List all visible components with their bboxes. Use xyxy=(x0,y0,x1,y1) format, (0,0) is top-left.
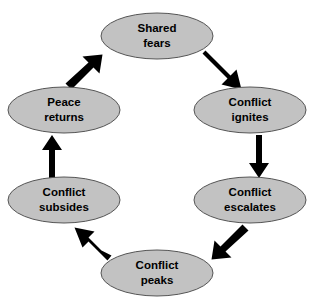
node-label-conflict-escalates-line2: escalates xyxy=(224,201,276,213)
node-peace-returns[interactable]: Peace returns xyxy=(8,87,120,133)
node-label-conflict-peaks-line1: Conflict xyxy=(136,259,179,271)
node-label-conflict-escalates-line1: Conflict xyxy=(229,186,272,198)
node-label-shared-fears-line2: fears xyxy=(143,37,171,49)
node-shared-fears[interactable]: Shared fears xyxy=(101,13,213,59)
conflict-cycle-diagram: Shared fears Conflict ignites Conflict e… xyxy=(0,0,314,298)
node-label-conflict-ignites-line1: Conflict xyxy=(229,96,272,108)
node-conflict-peaks[interactable]: Conflict peaks xyxy=(101,250,213,296)
node-shape-conflict-escalates xyxy=(194,177,306,223)
node-label-peace-returns-line2: returns xyxy=(44,111,84,123)
node-shape-conflict-peaks xyxy=(101,250,213,296)
node-label-conflict-subsides-line1: Conflict xyxy=(43,186,86,198)
node-conflict-subsides[interactable]: Conflict subsides xyxy=(8,177,120,223)
node-shape-shared-fears xyxy=(101,13,213,59)
arrow-shared-fears-to-conflict-ignites xyxy=(203,51,242,90)
node-conflict-escalates[interactable]: Conflict escalates xyxy=(194,177,306,223)
arrow-peace-returns-to-shared-fears xyxy=(66,55,103,90)
node-shape-peace-returns xyxy=(8,87,120,133)
arrow-conflict-peaks-to-conflict-subsides xyxy=(75,228,112,261)
node-label-conflict-ignites-line2: ignites xyxy=(231,111,268,123)
node-shape-conflict-ignites xyxy=(194,87,306,133)
arrow-conflict-subsides-to-peace-returns xyxy=(42,135,62,178)
node-label-shared-fears-line1: Shared xyxy=(138,22,177,34)
arrow-conflict-ignites-to-conflict-escalates xyxy=(249,135,269,178)
node-conflict-ignites[interactable]: Conflict ignites xyxy=(194,87,306,133)
node-label-conflict-peaks-line2: peaks xyxy=(141,274,174,286)
node-shape-conflict-subsides xyxy=(8,177,120,223)
arrow-conflict-escalates-to-conflict-peaks xyxy=(212,225,249,260)
node-label-conflict-subsides-line2: subsides xyxy=(39,201,89,213)
node-label-peace-returns-line1: Peace xyxy=(47,96,80,108)
cycle-diagram-canvas: Shared fears Conflict ignites Conflict e… xyxy=(0,0,314,298)
